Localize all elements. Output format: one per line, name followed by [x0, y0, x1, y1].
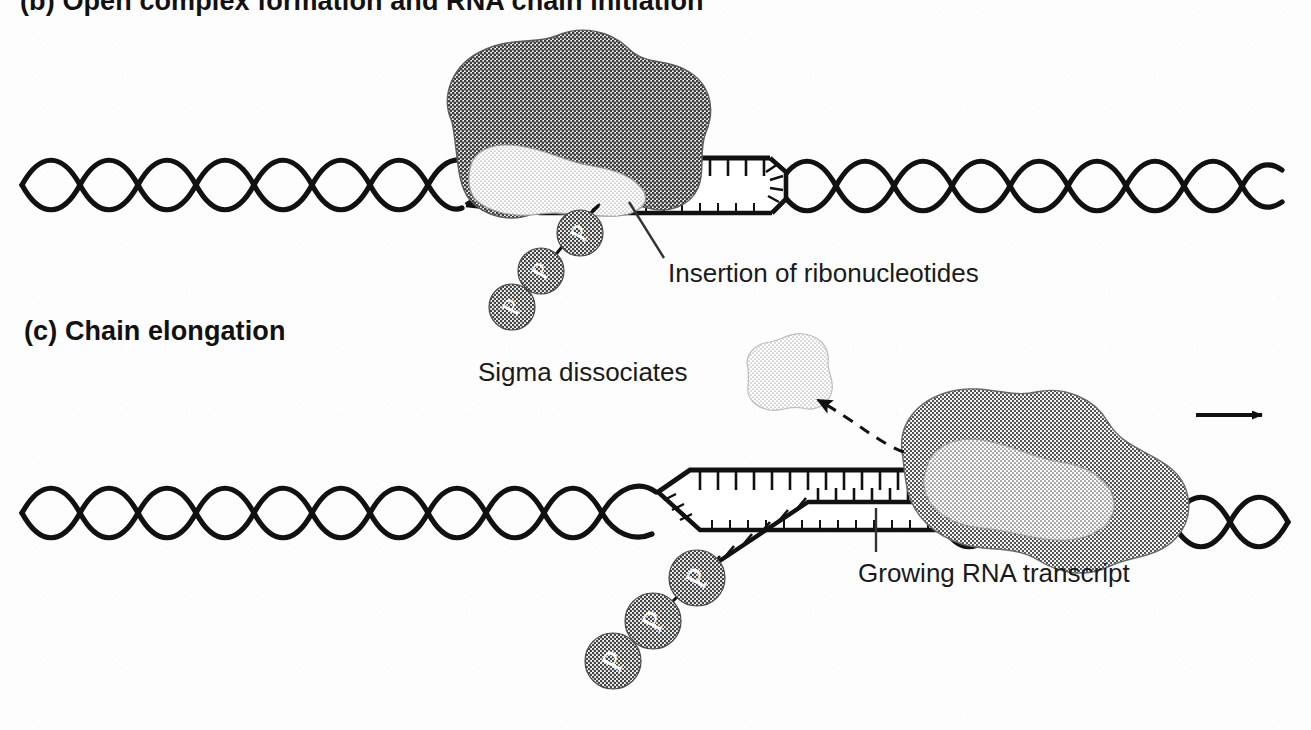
panel-b-group: P P P	[22, 30, 1282, 330]
label-insertion-of-ribonucleotides: Insertion of ribonucleotides	[668, 258, 979, 289]
sigma-factor-blob	[747, 334, 832, 411]
nascent-rna-b: P P P	[489, 204, 603, 330]
panel-b-heading: (b) Open complex formation and RNA chain…	[20, 0, 704, 17]
sigma-release-arrow	[818, 400, 904, 452]
phosphate-chain-c: P P P	[585, 550, 725, 689]
transcription-figure: P P P	[0, 0, 1311, 730]
phosphate-chain-b: P P P	[489, 210, 603, 330]
rna-polymerase-b	[447, 30, 710, 218]
rna-polymerase-c	[902, 389, 1189, 573]
panel-c-heading: (c) Chain elongation	[24, 316, 286, 347]
label-sigma-dissociates: Sigma dissociates	[478, 357, 688, 388]
dna-duplex-left-b	[22, 160, 470, 210]
dna-duplex-right-b	[778, 161, 1282, 211]
label-growing-rna-transcript: Growing RNA transcript	[858, 558, 1130, 589]
dna-duplex-left-c	[22, 486, 656, 538]
